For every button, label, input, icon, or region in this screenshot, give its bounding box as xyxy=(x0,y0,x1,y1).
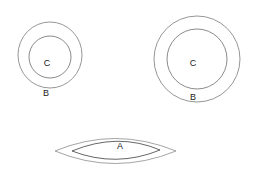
left-annulus-outer-label: B xyxy=(43,88,49,98)
left-annulus-group: C B xyxy=(18,22,82,98)
right-annulus-inner-label: C xyxy=(190,58,197,68)
right-annulus-inner-circle xyxy=(167,29,227,89)
diagram-canvas: C B C B A xyxy=(0,0,257,176)
lens-inner-label: A xyxy=(117,141,123,151)
geometric-diagram: C B C B A xyxy=(0,0,257,176)
right-annulus-group: C B xyxy=(154,16,240,102)
lens-group: A xyxy=(55,139,176,164)
left-annulus-inner-circle xyxy=(29,36,71,78)
left-annulus-inner-label: C xyxy=(44,58,51,68)
right-annulus-outer-label: B xyxy=(190,92,196,102)
